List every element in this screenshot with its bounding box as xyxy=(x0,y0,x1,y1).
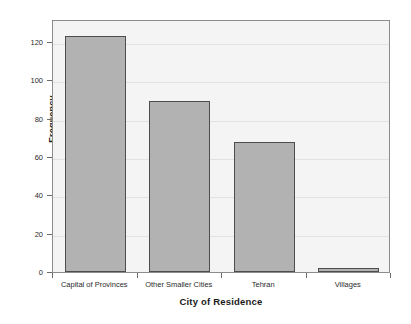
bar xyxy=(149,101,210,272)
y-tick: 0 xyxy=(0,268,52,278)
y-tick: 80 xyxy=(0,115,52,125)
y-tick-label: 40 xyxy=(35,191,43,201)
plot-area xyxy=(52,20,390,273)
y-tick-label: 60 xyxy=(35,153,43,163)
bar xyxy=(65,36,126,272)
y-tick-label: 100 xyxy=(30,76,43,86)
bar xyxy=(234,142,295,272)
y-tick-label: 20 xyxy=(35,230,43,240)
x-tick-label: Capital of Provinces xyxy=(61,280,128,289)
x-tick-label: Other Smaller Cities xyxy=(145,280,212,289)
y-tick: 40 xyxy=(0,191,52,201)
x-tick-label: Tehran xyxy=(252,280,275,289)
bar xyxy=(318,268,379,272)
x-tick-mark xyxy=(221,273,222,278)
y-tick: 20 xyxy=(0,230,52,240)
y-tick: 60 xyxy=(0,153,52,163)
plot-inner xyxy=(53,21,389,272)
y-tick: 100 xyxy=(0,76,52,86)
x-tick-mark xyxy=(137,273,138,278)
y-tick-label: 0 xyxy=(39,268,43,278)
x-tick-mark xyxy=(52,273,53,278)
x-tick-mark xyxy=(390,273,391,278)
y-tick: 120 xyxy=(0,38,52,48)
bar-chart: Frequency 020406080100120 Capital of Pro… xyxy=(0,0,411,324)
x-axis-title: City of Residence xyxy=(52,296,390,307)
x-tick-label: Villages xyxy=(335,280,361,289)
y-tick-label: 120 xyxy=(30,38,43,48)
y-tick-label: 80 xyxy=(35,115,43,125)
x-tick-mark xyxy=(306,273,307,278)
